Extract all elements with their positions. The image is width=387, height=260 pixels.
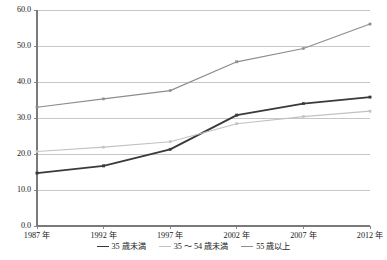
- x-tick-label: 1997 年: [157, 232, 183, 240]
- y-tick-label: 50.0: [1, 42, 31, 50]
- legend-item[interactable]: 35 歳未満: [97, 243, 146, 251]
- y-tick-label: 40.0: [1, 78, 31, 86]
- legend-label: 55 歳以上: [256, 243, 290, 251]
- y-tick-label: 60.0: [1, 6, 31, 14]
- legend-label: 35 ～ 54 歳未満: [174, 243, 229, 251]
- x-tick-label: 2012 年: [357, 232, 383, 240]
- x-tick-label: 2007 年: [290, 232, 316, 240]
- chart-legend: 35 歳未満35 ～ 54 歳未満55 歳以上: [0, 243, 387, 251]
- legend-item[interactable]: 35 ～ 54 歳未満: [159, 243, 229, 251]
- x-tick-label: 2002 年: [224, 232, 250, 240]
- x-tick-label: 1987 年: [24, 232, 50, 240]
- line-chart: 60.050.040.030.020.010.00.0 1987 年1992 年…: [0, 0, 387, 260]
- y-tick-label: 10.0: [1, 186, 31, 194]
- legend-item[interactable]: 55 歳以上: [241, 243, 290, 251]
- y-tick-label: 0.0: [1, 222, 31, 230]
- x-tick-label: 1992 年: [90, 232, 116, 240]
- legend-label: 35 歳未満: [112, 243, 146, 251]
- y-tick-label: 20.0: [1, 150, 31, 158]
- y-tick-label: 30.0: [1, 114, 31, 122]
- chart-plot-area: [0, 0, 387, 260]
